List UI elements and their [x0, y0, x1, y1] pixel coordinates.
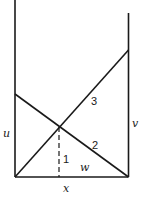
crossed-ladders-diagram: u v x w 1 2 3 [0, 0, 141, 197]
label-w: w [80, 161, 90, 174]
line-3 [15, 50, 129, 177]
label-x: x [63, 182, 70, 195]
label-v: v [132, 117, 139, 130]
label-1: 1 [63, 153, 69, 165]
label-3: 3 [91, 95, 97, 107]
label-u: u [3, 127, 10, 140]
label-2: 2 [92, 139, 98, 151]
line-2 [15, 94, 129, 177]
